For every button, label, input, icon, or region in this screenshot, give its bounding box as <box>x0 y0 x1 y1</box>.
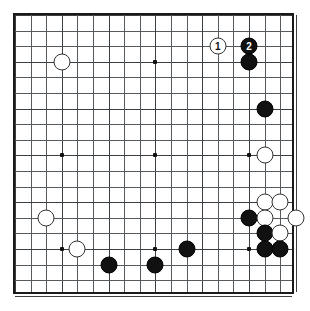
stone-white-3-14[interactable] <box>38 209 55 226</box>
stone-black-16-14[interactable] <box>241 209 258 226</box>
grid-line-vertical-15 <box>233 15 234 292</box>
star-point-10-10 <box>153 153 157 157</box>
grid-line-vertical-14 <box>218 15 219 292</box>
stone-white-19-14[interactable] <box>287 209 304 226</box>
grid-line-horizontal-15 <box>15 233 292 234</box>
stone-white-17-13[interactable] <box>256 194 273 211</box>
grid-line-horizontal-2 <box>15 31 292 32</box>
grid-line-vertical-11 <box>171 15 172 292</box>
stone-move-number: 2 <box>242 39 257 54</box>
grid-line-horizontal-13 <box>15 202 292 203</box>
grid-line-vertical-3 <box>46 15 47 292</box>
grid-line-horizontal-1 <box>15 15 292 16</box>
stone-black-17-16[interactable] <box>256 241 273 258</box>
stone-black-16-4[interactable] <box>241 53 258 70</box>
stone-white-17-10[interactable] <box>256 147 273 164</box>
stone-white-18-15[interactable] <box>272 225 289 242</box>
grid-line-vertical-6 <box>93 15 94 292</box>
grid-line-vertical-7 <box>109 15 110 292</box>
stone-black-16-3[interactable]: 2 <box>241 38 258 55</box>
grid-line-vertical-13 <box>202 15 203 292</box>
stone-black-7-17[interactable] <box>100 256 117 273</box>
grid-line-horizontal-7 <box>15 109 292 110</box>
grid-line-horizontal-19 <box>15 296 292 297</box>
stone-white-4-4[interactable] <box>53 53 70 70</box>
grid-line-vertical-1 <box>15 15 16 292</box>
grid-line-vertical-9 <box>140 15 141 292</box>
stone-white-18-13[interactable] <box>272 194 289 211</box>
star-point-4-16 <box>60 247 64 251</box>
grid-line-horizontal-12 <box>15 187 292 188</box>
go-board-diagram: 12 <box>0 0 310 311</box>
grid-line-horizontal-5 <box>15 77 292 78</box>
stone-black-12-16[interactable] <box>178 241 195 258</box>
stone-white-17-14[interactable] <box>256 209 273 226</box>
grid-line-vertical-19 <box>296 15 297 292</box>
stone-black-17-15[interactable] <box>256 225 273 242</box>
stone-black-18-16[interactable] <box>272 241 289 258</box>
stone-move-number: 1 <box>210 39 225 54</box>
grid-line-horizontal-18 <box>15 280 292 281</box>
grid-line-horizontal-9 <box>15 140 292 141</box>
star-point-10-4 <box>153 60 157 64</box>
star-point-16-16 <box>247 247 251 251</box>
grid-line-horizontal-6 <box>15 93 292 94</box>
star-point-16-10 <box>247 153 251 157</box>
go-board-grid[interactable]: 12 <box>13 13 294 294</box>
star-point-10-16 <box>153 247 157 251</box>
stone-white-14-3[interactable]: 1 <box>209 38 226 55</box>
star-point-4-10 <box>60 153 64 157</box>
stone-black-17-7[interactable] <box>256 100 273 117</box>
grid-line-vertical-2 <box>31 15 32 292</box>
grid-line-horizontal-8 <box>15 124 292 125</box>
stone-white-5-16[interactable] <box>69 241 86 258</box>
grid-line-horizontal-11 <box>15 171 292 172</box>
grid-line-vertical-8 <box>124 15 125 292</box>
stone-black-10-17[interactable] <box>147 256 164 273</box>
